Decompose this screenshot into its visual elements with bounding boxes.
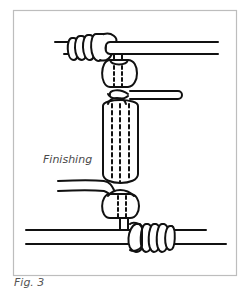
bottom-coil bbox=[128, 223, 174, 252]
top-round-bead bbox=[102, 60, 137, 87]
finishing-diagram: Finishing bbox=[0, 0, 249, 293]
bottom-round-bead bbox=[102, 190, 139, 218]
figure-caption: Fig. 3 bbox=[14, 276, 44, 289]
finishing-label: Finishing bbox=[43, 153, 92, 166]
tube-bead bbox=[103, 98, 138, 183]
